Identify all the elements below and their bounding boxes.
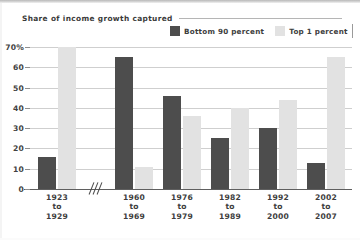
x-tick-label: 2002to2007	[300, 193, 352, 221]
y-tick-label: 50	[0, 83, 24, 92]
bar-group	[115, 47, 153, 189]
y-tick-label: 40	[0, 103, 24, 112]
chart-legend: Bottom 90 percent Top 1 percent	[170, 24, 348, 38]
bar-bottom90	[38, 157, 56, 189]
plot-area	[30, 47, 352, 189]
bar-group	[163, 47, 201, 189]
bar-top1	[327, 57, 345, 189]
axis-break-icon	[88, 182, 104, 196]
y-tick-label: 30	[0, 124, 24, 133]
x-tick-label: 1992to2000	[252, 193, 304, 221]
legend-entry-bottom90: Bottom 90 percent	[170, 26, 264, 36]
x-tick-label-line: 1976	[156, 193, 208, 202]
bar-top1	[135, 167, 153, 189]
bar-bottom90	[259, 128, 277, 189]
x-tick-label-line: to	[204, 202, 256, 211]
x-tick-label-line: to	[108, 202, 160, 211]
y-tick-label: 0	[0, 185, 24, 194]
x-tick-label-line: to	[156, 202, 208, 211]
x-tick-label-line: to	[300, 202, 352, 211]
bar-bottom90	[115, 57, 133, 189]
y-tick-label: 70%	[0, 43, 24, 52]
scan-artifact-left	[0, 3, 2, 240]
legend-swatch-bottom90-icon	[170, 26, 180, 36]
y-tick-mark	[25, 108, 30, 109]
y-tick-label: 60	[0, 63, 24, 72]
y-tick-mark	[25, 128, 30, 129]
bar-group	[259, 47, 297, 189]
bar-bottom90	[307, 163, 325, 189]
x-tick-label-line: 1960	[108, 193, 160, 202]
x-tick-label: 1923to1929	[31, 193, 83, 221]
chart-title-row: Share of income growth captured	[22, 12, 342, 24]
legend-divider	[352, 24, 353, 38]
x-tick-label-line: 2007	[300, 212, 352, 221]
legend-entry-top1: Top 1 percent	[275, 26, 348, 36]
x-tick-label-line: 1969	[108, 212, 160, 221]
x-tick-label: 1976to1979	[156, 193, 208, 221]
y-tick-mark	[25, 47, 30, 48]
scan-artifact-top	[0, 0, 360, 3]
y-tick-label: 20	[0, 144, 24, 153]
x-tick-label-line: 1979	[156, 212, 208, 221]
x-tick-label-line: 1989	[204, 212, 256, 221]
bar-top1	[58, 47, 76, 189]
bar-top1	[231, 108, 249, 189]
y-tick-mark	[25, 88, 30, 89]
x-tick-label: 1960to1969	[108, 193, 160, 221]
y-tick-mark	[25, 169, 30, 170]
title-rule	[179, 18, 342, 19]
bar-bottom90	[211, 138, 229, 189]
chart-figure: Share of income growth captured Bottom 9…	[0, 0, 360, 240]
bar-top1	[279, 100, 297, 189]
x-tick-label-line: 2000	[252, 212, 304, 221]
chart-title: Share of income growth captured	[22, 14, 173, 23]
x-tick-label: 1982to1989	[204, 193, 256, 221]
x-tick-label-line: 1929	[31, 212, 83, 221]
x-axis-line	[24, 189, 352, 190]
y-tick-label: 10	[0, 164, 24, 173]
y-tick-mark	[25, 189, 30, 190]
x-tick-label-line: 1992	[252, 193, 304, 202]
x-tick-label-line: to	[252, 202, 304, 211]
x-tick-label-line: 1923	[31, 193, 83, 202]
legend-swatch-top1-icon	[275, 26, 285, 36]
x-tick-label-line: to	[31, 202, 83, 211]
x-tick-label-line: 2002	[300, 193, 352, 202]
bar-bottom90	[163, 96, 181, 189]
legend-label-bottom90: Bottom 90 percent	[184, 27, 264, 36]
bar-group	[38, 47, 76, 189]
y-tick-mark	[25, 67, 30, 68]
bar-top1	[183, 116, 201, 189]
bar-group	[211, 47, 249, 189]
legend-label-top1: Top 1 percent	[289, 27, 348, 36]
x-tick-label-line: 1982	[204, 193, 256, 202]
bar-group	[307, 47, 345, 189]
y-tick-mark	[25, 148, 30, 149]
